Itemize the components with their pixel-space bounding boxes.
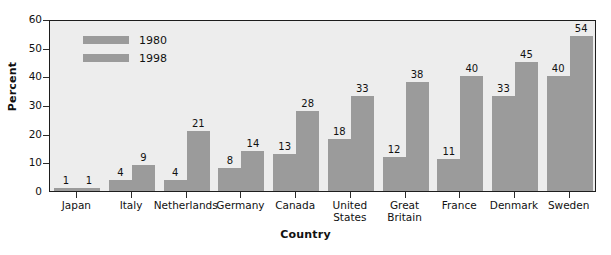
x-tick-mark-0 xyxy=(76,192,77,198)
x-tick-mark-4 xyxy=(295,192,296,198)
x-tick-mark-5 xyxy=(350,192,351,198)
legend-swatch-1980 xyxy=(83,36,129,44)
bar-value-label: 14 xyxy=(237,138,268,149)
bar-value-label: 40 xyxy=(456,63,487,74)
bar-value-label: 45 xyxy=(511,49,542,60)
y-tick-label-30: 30 xyxy=(16,99,42,111)
legend-item-1980: 1980 xyxy=(83,31,167,49)
bar xyxy=(460,76,483,191)
bar-value-label: 1 xyxy=(73,175,104,186)
x-axis-title: Country xyxy=(0,228,611,241)
bar xyxy=(187,131,210,191)
bar xyxy=(492,96,515,191)
bar xyxy=(383,157,406,191)
legend-label-1980: 1980 xyxy=(139,34,167,47)
y-tick-label-20: 20 xyxy=(16,128,42,140)
chart-legend: 1980 1998 xyxy=(83,31,167,67)
bar xyxy=(54,188,77,191)
bar xyxy=(77,188,100,191)
bar xyxy=(515,62,538,191)
bar xyxy=(570,36,593,191)
x-tick-label-sweden: Sweden xyxy=(527,200,611,212)
bar xyxy=(406,82,429,191)
bar xyxy=(296,111,319,191)
bar xyxy=(328,139,351,191)
bar xyxy=(273,154,296,191)
bar xyxy=(164,180,187,191)
bar-value-label: 33 xyxy=(347,83,378,94)
y-tick-label-0: 0 xyxy=(16,185,42,197)
y-tick-label-10: 10 xyxy=(16,156,42,168)
x-tick-mark-8 xyxy=(514,192,515,198)
x-tick-mark-9 xyxy=(569,192,570,198)
y-tick-label-60: 60 xyxy=(16,13,42,25)
bar-value-label: 9 xyxy=(128,152,159,163)
bar xyxy=(109,180,132,191)
bar-value-label: 54 xyxy=(566,23,597,34)
y-tick-label-50: 50 xyxy=(16,42,42,54)
bar-value-label: 38 xyxy=(402,69,433,80)
legend-item-1998: 1998 xyxy=(83,49,167,67)
bar xyxy=(132,165,155,191)
bar xyxy=(351,96,374,191)
bar xyxy=(241,151,264,191)
x-tick-mark-6 xyxy=(405,192,406,198)
x-tick-mark-3 xyxy=(240,192,241,198)
bar-value-label: 28 xyxy=(292,98,323,109)
bar xyxy=(218,168,241,191)
bar xyxy=(547,76,570,191)
bar-chart-figure: Percent 6050403020100 114942181413281833… xyxy=(0,0,611,255)
bar-value-label: 21 xyxy=(183,118,214,129)
x-tick-mark-1 xyxy=(131,192,132,198)
legend-swatch-1998 xyxy=(83,54,129,62)
bar xyxy=(437,159,460,191)
legend-label-1998: 1998 xyxy=(139,52,167,65)
x-tick-mark-2 xyxy=(186,192,187,198)
y-tick-label-40: 40 xyxy=(16,70,42,82)
plot-area: 1149421814132818331238114033454054 1980 … xyxy=(49,20,596,192)
x-tick-mark-7 xyxy=(459,192,460,198)
